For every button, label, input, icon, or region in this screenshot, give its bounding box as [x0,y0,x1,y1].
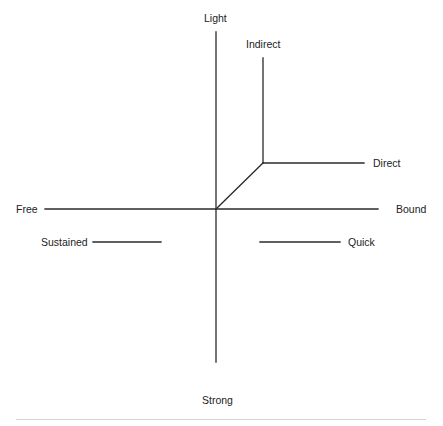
bottom-divider [16,419,426,420]
label-light: Light [204,12,227,24]
label-bound: Bound [396,203,426,215]
label-free: Free [16,203,38,215]
label-sustained: Sustained [41,236,88,248]
label-strong: Strong [202,394,233,406]
label-indirect: Indirect [246,38,280,50]
label-direct: Direct [373,157,400,169]
diagram-lines [0,0,443,426]
diagonal-branch [216,163,263,209]
label-quick: Quick [348,236,375,248]
effort-diagram: Light Indirect Direct Free Bound Sustain… [0,0,443,426]
